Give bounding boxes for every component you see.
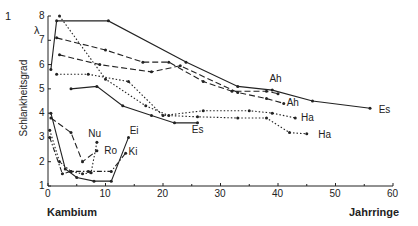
data-point [236, 117, 239, 120]
data-point [173, 121, 176, 124]
data-point [87, 73, 90, 76]
data-point [127, 136, 130, 139]
y-tick-label: 8 [39, 11, 45, 21]
data-point [288, 131, 291, 134]
data-point [162, 114, 165, 117]
series-line-ah [57, 38, 278, 94]
data-point [55, 36, 58, 39]
data-point [202, 80, 205, 83]
series-line-ha [57, 74, 296, 118]
data-point [150, 114, 153, 117]
data-point [265, 97, 268, 100]
data-point [150, 70, 153, 73]
data-point [277, 92, 280, 95]
data-point [144, 104, 147, 107]
data-point [70, 87, 73, 90]
data-point [196, 115, 199, 118]
y-tick-label: 5 [39, 84, 45, 94]
data-point [141, 61, 144, 64]
data-point [58, 15, 61, 18]
data-point [104, 78, 107, 81]
data-point [179, 64, 182, 67]
figure-number: 1 [5, 10, 11, 22]
series-line-es [71, 86, 198, 123]
y-tick-label: 4 [39, 108, 45, 118]
data-point [167, 114, 170, 117]
data-point [95, 141, 98, 144]
data-point [49, 68, 52, 71]
y-tick-label: 2 [39, 157, 45, 167]
series-label: Ro [104, 146, 117, 156]
data-point [265, 117, 268, 120]
data-point [124, 152, 127, 155]
series-label: Ha [301, 113, 314, 123]
data-point [110, 180, 113, 183]
data-point [95, 85, 98, 88]
data-point [185, 61, 188, 64]
data-point [55, 19, 58, 22]
data-point [271, 89, 274, 92]
data-point [271, 112, 274, 115]
series-label: Ei [130, 126, 139, 136]
x-axis-label-left: Kambium [47, 206, 97, 218]
data-point [294, 117, 297, 120]
x-axis-label-right: Jahrringe [349, 206, 399, 218]
data-point [64, 168, 67, 171]
data-point [58, 53, 61, 56]
data-point [48, 129, 51, 132]
series-label: Ah [269, 74, 281, 84]
x-tick-label: 0 [45, 189, 51, 199]
data-point [107, 19, 110, 22]
series-label: Ki [129, 147, 138, 157]
x-tick-label: 20 [157, 189, 168, 199]
y-axis-label: Schlankheitsgrad [18, 67, 29, 137]
data-point [236, 85, 239, 88]
data-point [55, 73, 58, 76]
data-point [369, 107, 372, 110]
data-point [70, 170, 73, 173]
data-point [167, 61, 170, 64]
data-point [104, 49, 107, 52]
x-tick-label: 60 [387, 189, 398, 199]
data-point [236, 91, 239, 94]
data-point [48, 136, 51, 139]
x-tick-label: 50 [330, 189, 341, 199]
data-point [127, 80, 130, 83]
y-tick-label: 7 [39, 35, 45, 45]
series-label: Nu [88, 129, 101, 139]
data-point [282, 102, 285, 105]
series-label: Es [379, 105, 391, 115]
series-label: Ah [287, 98, 299, 108]
y-tick-label: 1 [39, 181, 45, 191]
data-point [311, 100, 314, 103]
data-point [98, 63, 101, 66]
x-tick-label: 30 [215, 189, 226, 199]
x-tick-label: 10 [100, 189, 111, 199]
data-point [75, 176, 78, 179]
data-point [49, 112, 52, 115]
data-point [93, 180, 96, 183]
data-point [305, 132, 308, 135]
data-point [61, 172, 64, 175]
data-point [110, 170, 113, 173]
data-point [121, 104, 124, 107]
series-label: Ha [318, 130, 331, 140]
y-tick-label: 3 [39, 132, 45, 142]
data-point [248, 109, 251, 112]
chart-canvas [0, 0, 418, 226]
data-point [70, 131, 73, 134]
series-label: Es [192, 125, 204, 135]
data-point [81, 172, 84, 175]
y-tick-label: 6 [39, 60, 45, 70]
data-point [81, 160, 84, 163]
data-point [202, 109, 205, 112]
x-tick-label: 40 [272, 189, 283, 199]
data-point [265, 90, 268, 93]
data-point [87, 170, 90, 173]
